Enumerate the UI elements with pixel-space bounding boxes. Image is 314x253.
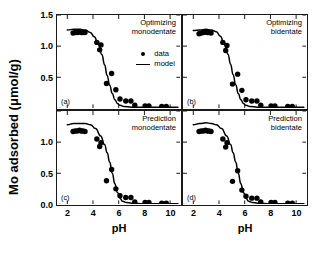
- data-point: [224, 43, 229, 48]
- y-tick-label: 1.5: [40, 10, 53, 20]
- x-axis-title-left: pH: [112, 222, 127, 234]
- panel-title-line2: bidentate: [268, 123, 302, 132]
- panel-title-line1: Optimizing: [132, 18, 176, 27]
- panel-title: Optimizingbidentate: [266, 18, 302, 36]
- chart-panel-c: Predictionmonodentate(c): [56, 110, 182, 206]
- data-point: [98, 42, 103, 47]
- data-point: [258, 103, 263, 108]
- data-point: [117, 193, 122, 198]
- panel-title-line2: monodentate: [132, 123, 176, 132]
- data-point: [146, 103, 151, 108]
- legend-item-data: data: [136, 49, 175, 59]
- data-point: [123, 195, 128, 200]
- x-tick-label: 6: [116, 208, 121, 218]
- data-point: [249, 98, 254, 103]
- y-axis-title: Mo adsorbed (μmol/g): [6, 59, 21, 195]
- legend-label: data: [154, 49, 169, 59]
- chart-panel-d: Predictionbidentate(d): [182, 110, 308, 206]
- data-point: [290, 200, 295, 204]
- x-axis-title-right: pH: [238, 222, 253, 234]
- y-tick-label: 1.0: [40, 41, 53, 51]
- data-point: [290, 104, 295, 109]
- x-tick-label: 4: [91, 208, 96, 218]
- data-point: [208, 30, 213, 35]
- data-point: [132, 199, 137, 204]
- data-point: [117, 96, 122, 101]
- chart-panel-b: Optimizingbidentate(b): [182, 14, 308, 110]
- legend-line-icon: [136, 59, 150, 69]
- data-point: [230, 179, 235, 184]
- data-point: [249, 195, 254, 200]
- data-point: [109, 71, 114, 76]
- x-tick-label: 10: [165, 208, 175, 218]
- data-point: [239, 88, 244, 93]
- panel-title: Predictionbidentate: [268, 114, 302, 132]
- data-point: [235, 168, 240, 173]
- y-tick-label: 0.0: [40, 200, 53, 210]
- data-point: [146, 200, 151, 205]
- panel-title-line1: Optimizing: [266, 18, 302, 27]
- data-point: [123, 98, 128, 103]
- data-point: [220, 136, 225, 141]
- data-point: [97, 47, 102, 52]
- data-point: [82, 129, 87, 134]
- data-point: [258, 199, 263, 204]
- x-tick-label: 8: [142, 208, 147, 218]
- panel-title-line2: monodentate: [132, 27, 176, 36]
- data-point: [208, 129, 213, 134]
- model-curve: [67, 123, 178, 203]
- data-points: [196, 29, 295, 108]
- panel-title-line2: bidentate: [266, 27, 302, 36]
- y-tick-label: 0.5: [40, 169, 53, 179]
- data-point: [243, 97, 248, 102]
- x-tick-label: 2: [65, 208, 70, 218]
- data-point: [272, 200, 277, 205]
- data-point: [128, 98, 133, 103]
- data-point: [230, 81, 235, 86]
- x-tick-label: 10: [291, 208, 301, 218]
- data-point: [113, 87, 118, 92]
- panel-grid: Optimizingmonodentate(a)datamodelOptimiz…: [56, 14, 308, 206]
- figure-mo-adsorption: Mo adsorbed (μmol/g) 0.51.01.50.00.51.0 …: [0, 0, 314, 253]
- model-curve: [193, 123, 304, 204]
- data-point: [254, 195, 259, 200]
- data-point: [104, 178, 109, 183]
- y-tick-label: 0.5: [40, 73, 53, 83]
- data-point: [98, 140, 103, 145]
- data-points: [70, 128, 169, 205]
- panel-label: (c): [61, 193, 69, 202]
- data-point: [109, 167, 114, 172]
- panel-label: (a): [61, 97, 70, 106]
- data-point: [243, 194, 248, 199]
- x-axis-tick-labels-left: 246810: [56, 208, 182, 222]
- data-points: [196, 128, 295, 205]
- panel-label: (d): [187, 193, 196, 202]
- data-point: [272, 103, 277, 108]
- x-tick-label: 8: [268, 208, 273, 218]
- legend: datamodel: [136, 49, 175, 69]
- data-point: [128, 195, 133, 200]
- chart-panel-a: Optimizingmonodentate(a)datamodel: [56, 14, 182, 110]
- panel-title-line1: Prediction: [132, 114, 176, 123]
- legend-item-model: model: [136, 59, 175, 69]
- panel-title: Optimizingmonodentate: [132, 18, 176, 36]
- data-point: [94, 136, 99, 141]
- legend-label: model: [154, 59, 175, 69]
- panel-title-line1: Prediction: [268, 114, 302, 123]
- data-point: [164, 104, 169, 109]
- y-tick-label: 1.0: [40, 137, 53, 147]
- x-axis-tick-labels-right: 246810: [182, 208, 308, 222]
- data-point: [235, 71, 240, 76]
- x-tick-label: 4: [217, 208, 222, 218]
- data-point: [113, 186, 118, 191]
- data-point: [82, 30, 87, 35]
- data-point: [239, 187, 244, 192]
- x-tick-label: 2: [191, 208, 196, 218]
- model-curve: [193, 29, 304, 107]
- y-axis-tick-labels: 0.51.01.50.00.51.0: [22, 14, 53, 206]
- panel-title: Predictionmonodentate: [132, 114, 176, 132]
- data-point: [104, 81, 109, 86]
- data-point: [223, 48, 228, 53]
- x-tick-label: 6: [242, 208, 247, 218]
- data-point: [224, 140, 229, 145]
